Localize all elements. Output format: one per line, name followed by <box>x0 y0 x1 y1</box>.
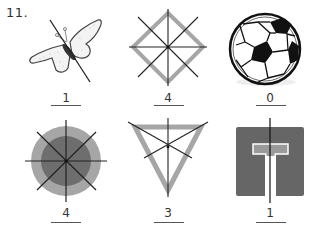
t-square-figure <box>0 0 312 230</box>
diamond-figure <box>0 0 312 230</box>
butterfly-icon <box>30 20 101 72</box>
concentric-circles-icon <box>31 126 101 196</box>
answer-circles: 4 <box>16 206 116 220</box>
concentric-circles-figure <box>0 0 312 230</box>
symmetry-lines <box>128 118 208 197</box>
answer-underline <box>256 222 286 223</box>
triangle-figure <box>0 0 312 230</box>
answer-underline <box>256 105 286 106</box>
t-in-square-icon <box>236 127 304 197</box>
butterfly-figure <box>0 0 312 230</box>
answer-t-square: 1 <box>220 206 312 220</box>
answer-butterfly: 1 <box>16 91 116 105</box>
answer-underline <box>51 105 81 106</box>
soccer-ball-icon <box>230 14 300 86</box>
answer-triangle: 3 <box>118 206 218 220</box>
symmetry-line <box>50 20 90 82</box>
question-number: 11. <box>6 5 28 20</box>
answer-underline <box>154 105 184 106</box>
answer-underline <box>51 222 81 223</box>
symmetry-lines <box>129 9 207 86</box>
symmetry-lines <box>25 120 107 202</box>
answer-soccer-ball: 0 <box>220 91 312 105</box>
answer-diamond: 4 <box>118 91 218 105</box>
soccer-ball-figure <box>0 0 312 230</box>
diamond-icon <box>133 13 203 82</box>
answer-underline <box>154 222 184 223</box>
inverted-triangle-icon <box>135 127 201 190</box>
